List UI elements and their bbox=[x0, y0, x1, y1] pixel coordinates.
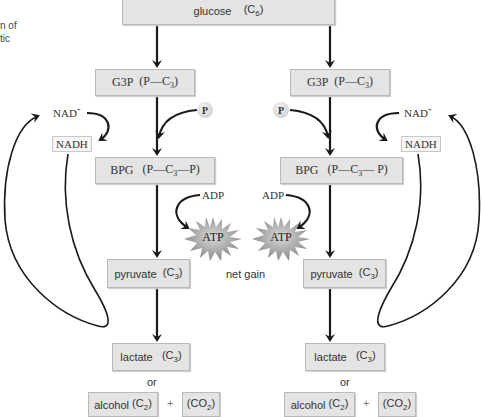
left-or-label: or bbox=[147, 376, 157, 388]
right-or-label: or bbox=[340, 376, 350, 388]
left-phosphate-icon: P bbox=[197, 102, 213, 118]
left-g3p-box: G3P (P—C3) bbox=[95, 69, 195, 96]
glucose-label: glucose bbox=[194, 5, 232, 17]
left-g3p-label: G3P bbox=[112, 75, 133, 90]
glucose-box: glucose (C6) bbox=[122, 0, 335, 25]
left-nad-plus: NAD+ bbox=[53, 106, 81, 119]
right-alcohol-box: alcohol (C2) bbox=[284, 392, 355, 417]
left-bpg-box: BPG (P—C3—P) bbox=[95, 157, 215, 184]
left-alcohol-box: alcohol (C2) bbox=[88, 392, 158, 417]
net-gain-label: net gain bbox=[226, 268, 265, 280]
pathway-arrows bbox=[0, 0, 482, 417]
right-nadh-box: NADH bbox=[401, 136, 441, 152]
glucose-formula: (C6) bbox=[244, 3, 264, 18]
left-atp-starburst: ATP bbox=[184, 217, 242, 261]
left-pyruvate-label: pyruvate bbox=[114, 268, 156, 280]
right-g3p-label: G3P bbox=[307, 75, 328, 90]
right-lactate-label: lactate bbox=[314, 351, 346, 363]
right-lactate-formula: (C3) bbox=[356, 349, 376, 364]
right-co2-formula: (CO2) bbox=[383, 397, 411, 412]
right-atp-starburst: ATP bbox=[252, 217, 310, 261]
right-bpg-formula: (P—C3— P) bbox=[327, 162, 387, 178]
left-pyruvate-formula: (C3) bbox=[163, 266, 183, 281]
right-atp-label: ATP bbox=[252, 230, 310, 245]
right-pyruvate-label: pyruvate bbox=[310, 268, 352, 280]
right-alcohol-formula: (C2) bbox=[329, 397, 349, 412]
left-atp-label: ATP bbox=[184, 230, 242, 245]
right-g3p-formula: (P—C3) bbox=[334, 74, 373, 90]
right-phosphate-icon: P bbox=[273, 102, 289, 118]
right-g3p-box: G3P (P—C3) bbox=[290, 69, 390, 96]
right-pyruvate-box: pyruvate (C3) bbox=[303, 259, 386, 288]
left-adp-label: ADP bbox=[202, 189, 224, 201]
left-g3p-formula: (P—C3) bbox=[139, 74, 178, 90]
left-lactate-formula: (C3) bbox=[162, 349, 182, 364]
left-pyruvate-box: pyruvate (C3) bbox=[107, 259, 190, 288]
left-nadh-box: NADH bbox=[52, 136, 92, 152]
left-bpg-label: BPG bbox=[110, 163, 133, 178]
right-adp-label: ADP bbox=[262, 189, 284, 201]
right-lactate-box: lactate (C3) bbox=[305, 343, 385, 371]
right-plus-sign: + bbox=[363, 397, 369, 409]
right-nad-plus: NAD+ bbox=[404, 106, 432, 119]
left-lactate-box: lactate (C3) bbox=[112, 343, 190, 371]
left-alcohol-formula: (C2) bbox=[132, 397, 152, 412]
left-co2-formula: (CO2) bbox=[187, 397, 215, 412]
left-co2-box: (CO2) bbox=[182, 392, 220, 417]
right-co2-box: (CO2) bbox=[378, 392, 416, 417]
right-pyruvate-formula: (C3) bbox=[359, 266, 379, 281]
left-bpg-formula: (P—C3—P) bbox=[142, 162, 199, 178]
left-alcohol-label: alcohol bbox=[94, 399, 129, 411]
left-lactate-label: lactate bbox=[120, 351, 152, 363]
left-plus-sign: + bbox=[167, 397, 173, 409]
right-bpg-box: BPG (P—C3— P) bbox=[280, 157, 403, 184]
right-bpg-label: BPG bbox=[295, 163, 318, 178]
right-alcohol-label: alcohol bbox=[291, 399, 326, 411]
